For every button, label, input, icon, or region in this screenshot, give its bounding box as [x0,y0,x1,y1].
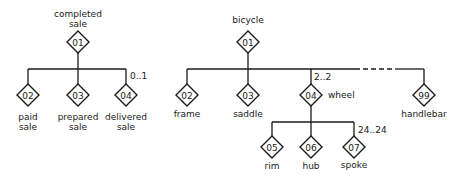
label-handlebar: handlebar [394,109,454,119]
id-spoke: 07 [348,143,359,153]
id-frame: 02 [181,91,192,101]
id-rim: 05 [266,143,277,153]
id-wheel: 04 [305,91,317,101]
label-line: completed [48,9,108,19]
label-paid-sale: paid sale [4,112,52,132]
label-line: delivered [96,112,156,122]
label-line: sale [96,122,156,132]
label-delivered-sale: delivered sale [96,112,156,132]
label-bicycle: bicycle [218,15,278,25]
id-delivered-sale: 04 [120,91,132,101]
label-completed-sale: completed sale [48,9,108,29]
id-prepared-sale: 03 [72,91,83,101]
label-line: sale [4,122,52,132]
label-rim: rim [252,161,292,171]
id-hub: 06 [305,143,317,153]
label-spoke: spoke [334,160,374,170]
id-completed-sale: 01 [72,38,83,48]
multiplicity-spoke: 24..24 [358,125,387,135]
multiplicity-delivered-sale: 0..1 [130,71,147,81]
multiplicity-wheel: 2..2 [314,72,331,82]
label-line: paid [4,112,52,122]
id-bicycle: 01 [242,38,253,48]
label-frame: frame [162,109,212,119]
id-paid-sale: 02 [22,91,33,101]
id-handlebar: 99 [418,91,430,101]
label-line: sale [48,19,108,29]
label-hub: hub [291,161,331,171]
id-saddle: 03 [242,91,253,101]
label-saddle: saddle [223,109,273,119]
label-wheel: wheel [328,90,355,100]
